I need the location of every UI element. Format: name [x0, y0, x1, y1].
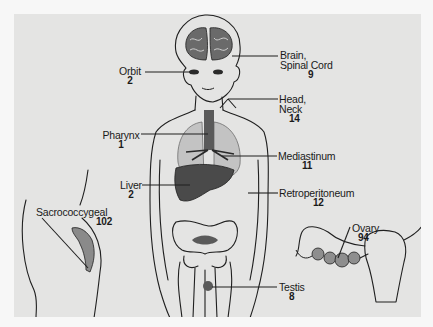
label-orbit-count: 2	[114, 76, 146, 86]
eye-left	[189, 70, 199, 75]
trachea	[204, 110, 214, 150]
label-liver-count: 2	[118, 190, 144, 200]
label-retroperitoneum-count: 12	[279, 198, 354, 208]
label-brain: Brain, Spinal Cord 9	[280, 50, 333, 80]
anatomy-illustration	[14, 14, 421, 317]
brain-shape	[186, 28, 232, 60]
label-pharynx: Pharynx 1	[100, 130, 142, 150]
label-ovary: Ovary 94	[352, 223, 379, 243]
label-brain-count: 9	[280, 70, 333, 80]
label-mediastinum-count: 11	[278, 161, 335, 171]
label-retroperitoneum: Retroperitoneum 12	[279, 188, 354, 208]
label-ovary-count: 94	[352, 233, 379, 243]
liver	[175, 164, 234, 201]
label-liver: Liver 2	[118, 180, 144, 200]
figure-panel: Brain, Spinal Cord 9 Orbit 2 Head, Neck …	[14, 14, 421, 317]
testis	[203, 281, 213, 291]
label-head-neck-count: 14	[279, 114, 306, 124]
side-figure-outline	[22, 200, 36, 317]
eye-right	[213, 70, 223, 75]
head-outline	[175, 15, 240, 102]
label-head-neck: Head, Neck 14	[279, 94, 306, 124]
label-pharynx-count: 1	[100, 140, 142, 150]
label-brain-line2: Spinal Cord	[280, 60, 333, 70]
sacrum	[72, 228, 94, 272]
label-testis: Testis 8	[279, 282, 305, 302]
label-mediastinum: Mediastinum 11	[278, 151, 335, 171]
label-orbit: Orbit 2	[114, 66, 146, 86]
label-sacrococcygeal-count: 102	[36, 217, 112, 227]
ovary	[312, 248, 360, 267]
label-sacrococcygeal: Sacrococcygeal 102	[36, 207, 112, 227]
label-testis-count: 8	[279, 292, 305, 302]
